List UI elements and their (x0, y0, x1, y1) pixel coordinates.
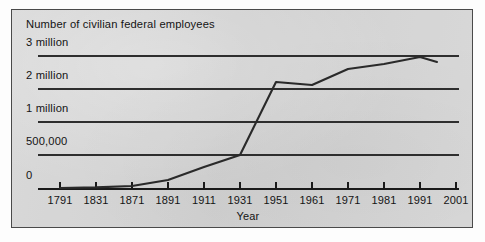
y-tick-label-500000: 500,000 (26, 135, 68, 147)
x-tick-label-1931: 1931 (228, 194, 253, 206)
x-tick-label-1951: 1951 (264, 194, 289, 206)
chart-area: Number of civilian federal employees 3 m… (0, 0, 485, 242)
x-tick-label-1871: 1871 (120, 194, 145, 206)
x-tick-label-1961: 1961 (300, 194, 325, 206)
x-tick-label-1891: 1891 (156, 194, 181, 206)
y-tick-label-3-million: 3 million (26, 36, 68, 48)
x-tick-label-1981: 1981 (372, 194, 397, 206)
x-tick-label-1831: 1831 (84, 194, 109, 206)
x-tick-label-1911: 1911 (192, 194, 216, 206)
y-tick-label-0: 0 (26, 169, 32, 181)
y-tick-label-1-million: 1 million (26, 102, 68, 114)
x-tick-label-1791: 1791 (48, 194, 73, 206)
x-tick-label-1991: 1991 (408, 194, 433, 206)
gridlines (38, 56, 459, 155)
x-tick-label-1971: 1971 (336, 194, 361, 206)
x-tick-label-2001: 2001 (444, 194, 469, 206)
y-tick-label-2-million: 2 million (26, 69, 68, 81)
chart-title: Number of civilian federal employees (26, 18, 215, 30)
x-axis-title: Year (237, 210, 260, 222)
page-background: Number of civilian federal employees 3 m… (0, 0, 485, 242)
